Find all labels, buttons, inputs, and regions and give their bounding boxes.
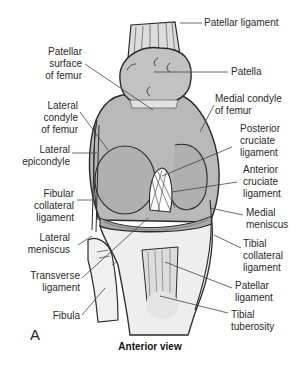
label-line: ligament	[243, 262, 283, 274]
label-tibial-collateral-ligament: Tibial collateral ligament	[243, 238, 283, 274]
label-lateral-condyle-of-femur: Lateral condyle of femur	[20, 100, 78, 136]
label-line: Lateral	[10, 232, 70, 244]
label-line: Medial	[246, 207, 288, 219]
label-line: Posterior	[240, 123, 280, 135]
label-line: ligament	[235, 292, 273, 304]
femur	[89, 95, 219, 222]
label-line: Tibial	[243, 238, 283, 250]
label-line: meniscus	[10, 244, 70, 256]
label-line: collateral	[243, 250, 283, 262]
label-line: tuberosity	[231, 321, 274, 333]
label-line: meniscus	[246, 219, 288, 231]
label-line: Patella	[231, 66, 262, 78]
label-line: ligament	[10, 212, 74, 224]
label-medial-condyle-of-femur: Medial condyle of femur	[215, 93, 282, 117]
label-patellar-ligament-bottom: Patellar ligament	[235, 280, 273, 304]
label-anterior-cruciate-ligament: Anterior cruciate ligament	[243, 164, 281, 200]
label-line: Tibial	[231, 309, 274, 321]
label-line: cruciate	[240, 135, 280, 147]
label-line: Patellar ligament	[204, 17, 278, 29]
label-patellar-ligament-top: Patellar ligament	[204, 17, 278, 29]
label-lateral-epicondyle: Lateral epicondyle	[10, 144, 70, 168]
label-line: Lateral	[10, 144, 70, 156]
label-line: ligament	[243, 188, 281, 200]
figure-caption: Anterior view	[0, 341, 300, 352]
label-medial-meniscus: Medial meniscus	[246, 207, 288, 231]
label-line: Medial condyle	[215, 93, 282, 105]
label-fibular-collateral-ligament: Fibular collateral ligament	[10, 188, 74, 224]
label-line: cruciate	[243, 176, 281, 188]
label-line: Transverse	[10, 270, 80, 282]
label-tibial-tuberosity: Tibial tuberosity	[231, 309, 274, 333]
label-line: ligament	[10, 282, 80, 294]
label-line: of femur	[215, 105, 282, 117]
label-patellar-surface-of-femur: Patellar surface of femur	[20, 46, 82, 82]
label-line: Lateral	[20, 100, 78, 112]
label-posterior-cruciate-ligament: Posterior cruciate ligament	[240, 123, 280, 159]
label-line: ligament	[240, 147, 280, 159]
label-line: epicondyle	[10, 156, 70, 168]
label-transverse-ligament: Transverse ligament	[10, 270, 80, 294]
label-line: Patellar	[20, 46, 82, 58]
label-fibula: Fibula	[20, 310, 80, 322]
label-line: of femur	[20, 124, 78, 136]
label-patella: Patella	[231, 66, 262, 78]
label-line: collateral	[10, 200, 74, 212]
label-line: surface	[20, 58, 82, 70]
label-line: Patellar	[235, 280, 273, 292]
label-line: of femur	[20, 70, 82, 82]
label-line: condyle	[20, 112, 78, 124]
label-line: Fibula	[20, 310, 80, 322]
label-lateral-meniscus: Lateral meniscus	[10, 232, 70, 256]
label-line: Anterior	[243, 164, 281, 176]
label-line: Fibular	[10, 188, 74, 200]
